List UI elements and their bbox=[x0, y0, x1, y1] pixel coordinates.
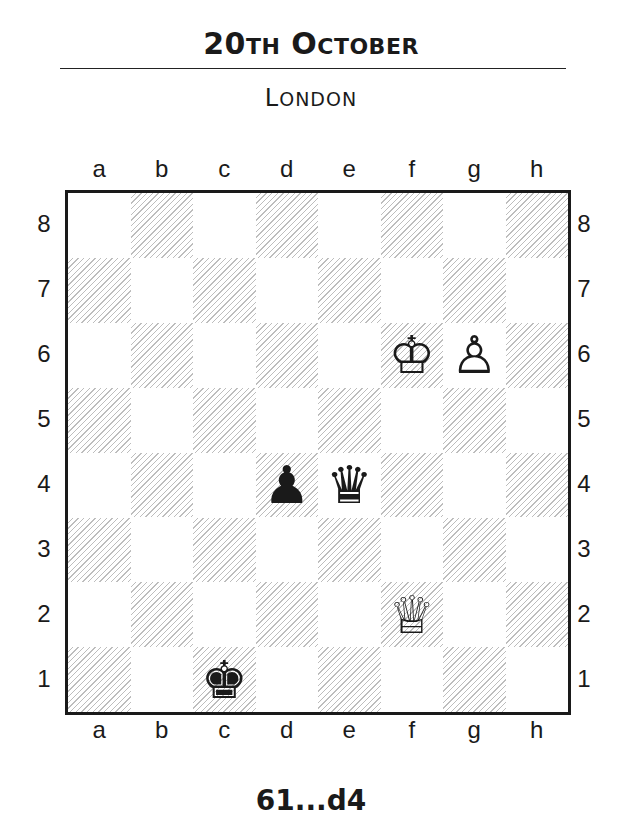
black-queen-icon[interactable]: ♛ bbox=[318, 453, 381, 518]
file-label-a-top: a bbox=[84, 155, 114, 183]
rank-label-6-left: 6 bbox=[32, 340, 56, 368]
square-e8[interactable] bbox=[318, 193, 381, 258]
square-e2[interactable] bbox=[318, 582, 381, 647]
file-label-g-top: g bbox=[459, 155, 489, 183]
date-suffix: TH bbox=[246, 34, 280, 59]
square-e6[interactable] bbox=[318, 323, 381, 388]
square-h6[interactable] bbox=[506, 323, 569, 388]
square-d6[interactable] bbox=[256, 323, 319, 388]
file-label-b-bottom: b bbox=[147, 716, 177, 744]
square-d3[interactable] bbox=[256, 518, 319, 583]
file-label-e-bottom: e bbox=[334, 716, 364, 744]
black-pawn-icon[interactable]: ♟ bbox=[256, 453, 319, 518]
file-label-c-bottom: c bbox=[209, 716, 239, 744]
square-f5[interactable] bbox=[381, 388, 444, 453]
square-b5[interactable] bbox=[131, 388, 194, 453]
location-subtitle: LONDON bbox=[0, 84, 622, 112]
square-f7[interactable] bbox=[381, 258, 444, 323]
square-a3[interactable] bbox=[68, 518, 131, 583]
rank-label-2-left: 2 bbox=[32, 600, 56, 628]
square-c7[interactable] bbox=[193, 258, 256, 323]
date-number: 20 bbox=[203, 26, 246, 61]
square-a7[interactable] bbox=[68, 258, 131, 323]
square-d1[interactable] bbox=[256, 647, 319, 712]
square-h4[interactable] bbox=[506, 453, 569, 518]
square-h3[interactable] bbox=[506, 518, 569, 583]
square-c8[interactable] bbox=[193, 193, 256, 258]
file-label-f-bottom: f bbox=[397, 716, 427, 744]
file-label-d-bottom: d bbox=[272, 716, 302, 744]
square-c5[interactable] bbox=[193, 388, 256, 453]
square-g1[interactable] bbox=[443, 647, 506, 712]
white-pawn-icon[interactable]: ♙ bbox=[443, 323, 506, 388]
page-title: 20TH OCTOBER bbox=[0, 26, 622, 61]
square-a4[interactable] bbox=[68, 453, 131, 518]
rank-label-5-right: 5 bbox=[572, 405, 596, 433]
location-initial: L bbox=[265, 84, 279, 112]
title-divider bbox=[60, 68, 566, 69]
square-g7[interactable] bbox=[443, 258, 506, 323]
square-d2[interactable] bbox=[256, 582, 319, 647]
rank-label-7-left: 7 bbox=[32, 275, 56, 303]
file-label-e-top: e bbox=[334, 155, 364, 183]
square-e1[interactable] bbox=[318, 647, 381, 712]
rank-label-3-right: 3 bbox=[572, 535, 596, 563]
white-king-icon[interactable]: ♔ bbox=[381, 323, 444, 388]
square-a8[interactable] bbox=[68, 193, 131, 258]
square-h7[interactable] bbox=[506, 258, 569, 323]
square-a2[interactable] bbox=[68, 582, 131, 647]
month-rest: CTOBER bbox=[317, 34, 419, 59]
square-a1[interactable] bbox=[68, 647, 131, 712]
square-g3[interactable] bbox=[443, 518, 506, 583]
square-b6[interactable] bbox=[131, 323, 194, 388]
square-e5[interactable] bbox=[318, 388, 381, 453]
file-label-a-bottom: a bbox=[84, 716, 114, 744]
square-h2[interactable] bbox=[506, 582, 569, 647]
file-label-h-top: h bbox=[522, 155, 552, 183]
square-b3[interactable] bbox=[131, 518, 194, 583]
square-c4[interactable] bbox=[193, 453, 256, 518]
square-g8[interactable] bbox=[443, 193, 506, 258]
square-b4[interactable] bbox=[131, 453, 194, 518]
square-c6[interactable] bbox=[193, 323, 256, 388]
square-a6[interactable] bbox=[68, 323, 131, 388]
square-a5[interactable] bbox=[68, 388, 131, 453]
rank-label-8-right: 8 bbox=[572, 210, 596, 238]
chess-board: ♔♙♟♛♕♚ bbox=[65, 190, 571, 715]
rank-label-7-right: 7 bbox=[572, 275, 596, 303]
black-king-icon[interactable]: ♚ bbox=[193, 647, 256, 712]
file-label-g-bottom: g bbox=[459, 716, 489, 744]
square-f8[interactable] bbox=[381, 193, 444, 258]
location-rest: ONDON bbox=[279, 88, 357, 110]
square-e3[interactable] bbox=[318, 518, 381, 583]
square-e7[interactable] bbox=[318, 258, 381, 323]
square-h5[interactable] bbox=[506, 388, 569, 453]
rank-label-4-right: 4 bbox=[572, 470, 596, 498]
file-label-f-top: f bbox=[397, 155, 427, 183]
square-f4[interactable] bbox=[381, 453, 444, 518]
square-b1[interactable] bbox=[131, 647, 194, 712]
square-b2[interactable] bbox=[131, 582, 194, 647]
file-label-c-top: c bbox=[209, 155, 239, 183]
square-c3[interactable] bbox=[193, 518, 256, 583]
square-b8[interactable] bbox=[131, 193, 194, 258]
white-queen-icon[interactable]: ♕ bbox=[381, 582, 444, 647]
square-d7[interactable] bbox=[256, 258, 319, 323]
square-d8[interactable] bbox=[256, 193, 319, 258]
file-label-h-bottom: h bbox=[522, 716, 552, 744]
square-g5[interactable] bbox=[443, 388, 506, 453]
square-b7[interactable] bbox=[131, 258, 194, 323]
square-f1[interactable] bbox=[381, 647, 444, 712]
square-g2[interactable] bbox=[443, 582, 506, 647]
square-c2[interactable] bbox=[193, 582, 256, 647]
move-caption: 61...d4 bbox=[0, 784, 622, 817]
rank-label-6-right: 6 bbox=[572, 340, 596, 368]
square-d5[interactable] bbox=[256, 388, 319, 453]
rank-label-3-left: 3 bbox=[32, 535, 56, 563]
square-h8[interactable] bbox=[506, 193, 569, 258]
file-label-d-top: d bbox=[272, 155, 302, 183]
square-g4[interactable] bbox=[443, 453, 506, 518]
rank-label-1-left: 1 bbox=[32, 665, 56, 693]
square-f3[interactable] bbox=[381, 518, 444, 583]
square-h1[interactable] bbox=[506, 647, 569, 712]
